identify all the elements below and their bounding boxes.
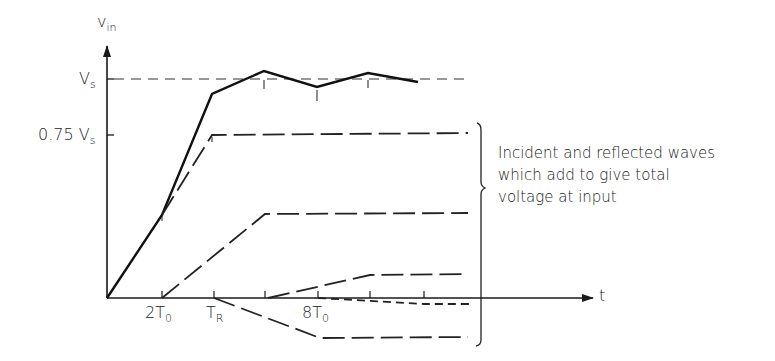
y-tick-label-075vs: 0.75 Vs [38,127,95,143]
x-tick-label-8t0: 8T0 [302,305,329,321]
annotation-text: Incident and reflected waves which add t… [498,142,715,208]
total-voltage-curve [107,71,418,298]
x-axis-label: t [599,288,605,304]
annotation-line: voltage at input [498,186,715,208]
annotation-line: which add to give total [498,164,715,186]
annotation-line: Incident and reflected waves [498,142,715,164]
reflected-wave-3 [268,274,468,298]
reflected-wave-4 [318,298,470,304]
x-ticks [162,291,424,298]
y-tick-label-vs: Vs [79,71,96,87]
reflected-wave-2 [162,213,468,298]
x-tick-label-tr: TR [206,305,223,321]
x-tick-label-2t0: 2T0 [145,305,172,321]
y-axis-label: vin [97,14,117,30]
upper-ticks [162,80,368,221]
incident-wave-1 [162,133,468,215]
curly-brace [476,123,485,346]
negative-wave [214,298,468,338]
